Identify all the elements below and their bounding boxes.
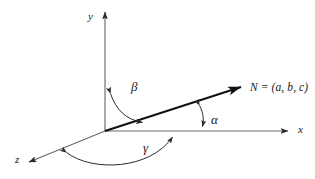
x-axis-label: x — [298, 124, 303, 135]
y-axis-label: y — [88, 11, 93, 22]
beta-angle-label: β — [131, 80, 137, 93]
gamma-angle-arc — [67, 137, 173, 165]
beta-angle-arc — [111, 94, 143, 123]
alpha-angle-arc — [200, 106, 204, 127]
vector-direction-angles-figure: y x z N = (a, b, c) α β γ — [0, 0, 315, 179]
gamma-angle-label: γ — [143, 141, 148, 154]
alpha-angle-label: α — [211, 113, 218, 126]
z-axis-line — [29, 131, 105, 162]
z-axis-label: z — [15, 154, 19, 165]
normal-vector-label: N = (a, b, c) — [250, 82, 308, 94]
normal-vector-N — [105, 87, 241, 131]
